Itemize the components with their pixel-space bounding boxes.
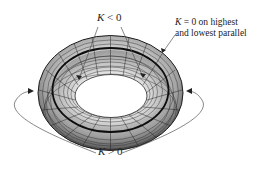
arrow-icon	[186, 88, 192, 94]
label-zero-curvature: K = 0 on highest and lowest parallel	[175, 17, 247, 39]
torus-hole	[75, 75, 147, 118]
value: 0	[116, 11, 122, 23]
torus-surface	[38, 35, 183, 151]
arrow-icon	[28, 88, 34, 94]
kzero-pointer	[163, 35, 175, 52]
value: 0	[117, 145, 123, 157]
label-text: on highest	[196, 17, 238, 27]
relation: >	[105, 145, 117, 157]
label-negative-curvature: K < 0	[97, 12, 122, 23]
relation: <	[104, 11, 116, 23]
relation: =	[181, 17, 191, 27]
label-line-2: and lowest parallel	[175, 28, 247, 39]
label-line-1: K = 0 on highest	[175, 17, 247, 28]
label-positive-curvature: K > 0	[98, 146, 123, 157]
